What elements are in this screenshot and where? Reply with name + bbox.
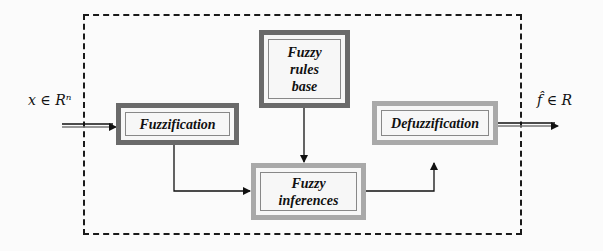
inferences-to-defuzzification-arrow [360,163,434,191]
output-label: f̂ ∈ R [537,92,572,108]
input-arrow [62,124,116,127]
inferences-block: Fuzzy inferences [251,163,366,220]
inferences-label: Fuzzy inferences [279,175,339,209]
fuzzification-block: Fuzzification [116,103,239,145]
defuzzification-label: Defuzzification [391,115,479,132]
fuzzification-to-inferences-arrow [174,144,250,191]
input-label: x ∈ Rⁿ [28,92,71,108]
defuzzification-block: Defuzzification [372,101,498,145]
fuzzification-label: Fuzzification [139,116,215,133]
rules-base-label: Fuzzy rules base [287,44,321,95]
rules-base-block: Fuzzy rules base [259,30,350,108]
output-arrow [498,123,558,126]
